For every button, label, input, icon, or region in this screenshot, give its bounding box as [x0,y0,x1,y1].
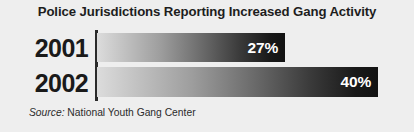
bar-row: 2001 27% [0,33,414,62]
bar-2002: 40% [97,67,378,97]
source-value: National Youth Gang Center [65,107,196,118]
source-note: Source: National Youth Gang Center [29,107,196,118]
bar-value-label-2001: 27% [248,40,278,56]
category-label-2001: 2001 [0,36,88,61]
category-label-2002: 2002 [0,71,88,96]
bar-value-label-2002: 40% [341,74,371,90]
gang-activity-bar-chart: Police Jurisdictions Reporting Increased… [0,0,414,132]
source-label: Source: [29,107,65,118]
bar-row: 2002 40% [0,67,414,97]
plot-area: 2001 27% 2002 40% [0,28,414,102]
bar-2001: 27% [97,33,285,62]
chart-title: Police Jurisdictions Reporting Increased… [0,4,414,19]
